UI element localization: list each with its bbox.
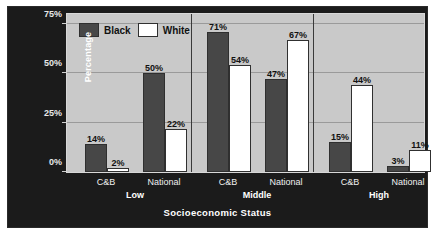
bar-middle-cb-white[interactable]: 54% <box>229 65 251 172</box>
x-sublabel-middle-cb: C&B <box>219 177 238 187</box>
bar-high-national-black[interactable]: 3% <box>387 166 409 172</box>
group-separator-2 <box>313 14 314 172</box>
y-tick-mark-50 <box>62 72 66 73</box>
bar-high-cb-black[interactable]: 15% <box>329 142 351 172</box>
y-tick-mark-0 <box>62 171 66 172</box>
bar-value-high-cb-white: 44% <box>353 75 371 85</box>
x-sublabel-middle-national: National <box>269 177 302 187</box>
x-group-label-low: Low <box>126 190 144 200</box>
bar-value-high-cb-black: 15% <box>331 132 349 142</box>
x-sublabel-high-national: National <box>391 177 424 187</box>
bar-value-low-cb-black: 14% <box>87 134 105 144</box>
y-axis-title: Percentage <box>83 2 93 112</box>
plot-area: 75% 50% 25% 0% 14% 2% 50% 22% <box>66 13 425 173</box>
chart-panel: 75% 50% 25% 0% 14% 2% 50% 22% <box>8 7 427 227</box>
y-tick-mark-75 <box>62 23 66 24</box>
bar-value-low-cb-white: 2% <box>111 158 124 168</box>
x-sublabel-low-cb: C&B <box>97 177 116 187</box>
bar-low-cb-white[interactable]: 2% <box>107 168 129 172</box>
bar-low-cb-black[interactable]: 14% <box>85 144 107 172</box>
bar-high-national-white[interactable]: 11% <box>409 150 431 172</box>
legend-label-black: Black <box>104 25 131 36</box>
bar-value-high-national-black: 3% <box>391 156 404 166</box>
bar-value-low-national-black: 50% <box>145 63 163 73</box>
chart-figure: 75% 50% 25% 0% 14% 2% 50% 22% <box>0 0 445 239</box>
bar-value-low-national-white: 22% <box>167 119 185 129</box>
bar-middle-national-white[interactable]: 67% <box>287 40 309 172</box>
x-sublabel-low-national: National <box>147 177 180 187</box>
bar-low-national-white[interactable]: 22% <box>165 129 187 172</box>
bar-middle-cb-black[interactable]: 71% <box>207 32 229 172</box>
legend: Black White <box>79 23 190 37</box>
y-tick-label-75: 75% <box>44 9 62 19</box>
bar-value-middle-national-white: 67% <box>289 30 307 40</box>
bar-low-national-black[interactable]: 50% <box>143 73 165 172</box>
bar-value-middle-cb-white: 54% <box>231 55 249 65</box>
bar-high-cb-white[interactable]: 44% <box>351 85 373 172</box>
legend-swatch-white-icon <box>138 23 158 37</box>
bar-value-high-national-white: 11% <box>411 140 429 150</box>
x-group-label-middle: Middle <box>243 190 272 200</box>
bar-value-middle-cb-black: 71% <box>209 22 227 32</box>
bar-value-middle-national-black: 47% <box>267 69 285 79</box>
x-sublabel-high-cb: C&B <box>341 177 360 187</box>
x-axis-title: Socioeconomic Status <box>8 207 427 218</box>
y-tick-label-0: 0% <box>49 157 62 167</box>
group-separator-1 <box>191 14 192 172</box>
y-tick-mark-25 <box>62 122 66 123</box>
y-tick-label-25: 25% <box>44 108 62 118</box>
legend-label-white: White <box>163 25 190 36</box>
y-tick-label-50: 50% <box>44 58 62 68</box>
legend-item-white[interactable]: White <box>138 23 190 37</box>
bar-middle-national-black[interactable]: 47% <box>265 79 287 172</box>
x-group-label-high: High <box>369 190 389 200</box>
